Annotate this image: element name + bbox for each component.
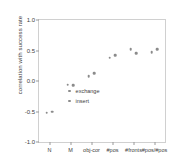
legend-item: insert [68, 96, 99, 106]
data-point [114, 54, 117, 57]
legend-item-label: exchange [76, 88, 100, 94]
data-point [151, 51, 154, 54]
y-axis-label: correlation with success rate [17, 0, 23, 115]
y-axis-tick-mark [36, 20, 39, 21]
x-axis-tick-mark [91, 142, 92, 145]
x-axis-tick-mark [154, 142, 155, 145]
chart-legend: exchangeinsert [68, 86, 99, 106]
x-axis-tick-mark [112, 142, 113, 145]
legend-item-label: insert [76, 98, 89, 104]
data-point [51, 110, 54, 113]
data-point [46, 111, 49, 114]
legend-marker-icon [68, 100, 71, 103]
data-point [156, 48, 159, 51]
legend-marker-icon [68, 90, 71, 93]
y-axis-tick-mark [36, 142, 39, 143]
data-point [130, 48, 133, 51]
x-axis-tick-mark [133, 142, 134, 145]
data-point [88, 75, 91, 78]
legend-item: exchange [68, 86, 99, 96]
plot-area: 1.00.50.0-0.5-1.0 NMobj-cor#pos#fronts#p… [38, 19, 166, 143]
y-axis-tick-mark [36, 111, 39, 112]
y-axis-tick-mark [36, 50, 39, 51]
y-axis-tick-mark [36, 81, 39, 82]
scatter-chart-figure: correlation with success rate 1.00.50.0-… [0, 0, 172, 165]
x-axis-tick-mark [49, 142, 50, 145]
data-point [135, 52, 138, 55]
x-axis-tick-mark [70, 142, 71, 145]
data-point [93, 72, 96, 75]
data-point [109, 57, 112, 60]
